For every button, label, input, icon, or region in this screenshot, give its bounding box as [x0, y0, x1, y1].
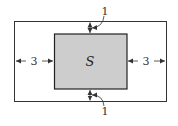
left-dim-label: 3 [31, 55, 38, 68]
right-dim-label: 3 [143, 55, 150, 68]
top-dim-label: 1 [102, 5, 109, 18]
margin-diagram: S 3 3 1 1 [0, 0, 178, 126]
bottom-dim-label: 1 [102, 105, 109, 118]
bottom-dimension: 1 [90, 90, 109, 118]
top-dimension: 1 [90, 5, 109, 33]
left-dimension: 3 [16, 55, 53, 68]
inner-label: S [86, 54, 95, 69]
right-dimension: 3 [128, 55, 165, 68]
